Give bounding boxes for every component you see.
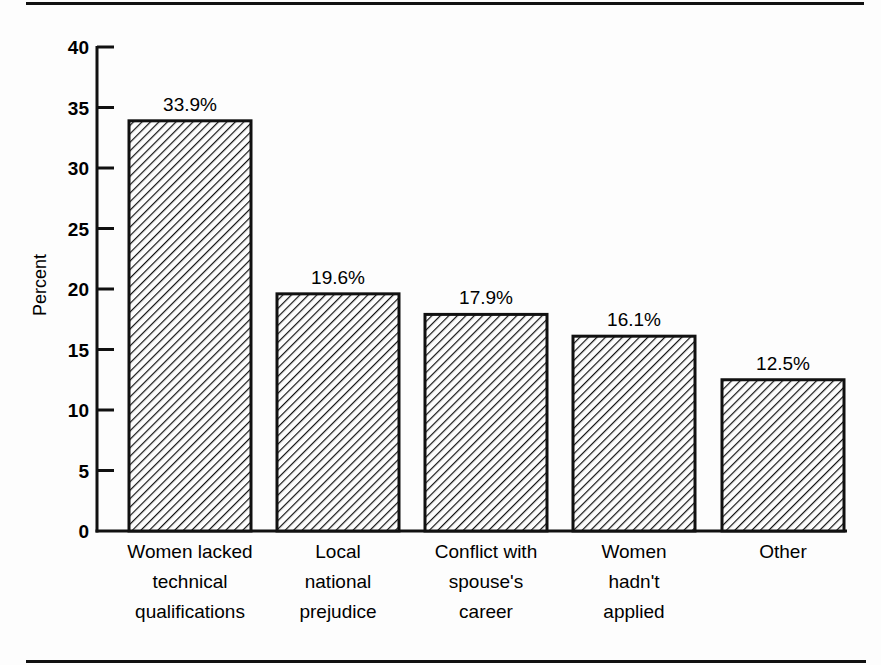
y-tick-label: 10 [68,400,89,421]
y-tick-label: 25 [68,219,90,240]
y-tick-label: 20 [68,279,89,300]
category-label: hadn't [608,571,660,592]
bar [129,121,251,531]
y-tick-label: 0 [78,521,89,542]
y-tick-label: 5 [78,461,89,482]
bar [425,314,547,531]
category-label: spouse's [449,571,523,592]
category-label: Women [601,541,666,562]
category-label: national [305,571,372,592]
value-label: 19.6% [311,267,365,288]
y-axis-title: Percent [30,254,50,316]
bar-group: 12.5%Other [722,353,844,562]
category-label: applied [603,601,664,622]
category-label: qualifications [135,601,245,622]
category-label: technical [153,571,228,592]
bar-group: 16.1%Womenhadn'tapplied [573,309,695,622]
category-label: Conflict with [435,541,537,562]
bar [722,380,844,531]
value-label: 33.9% [163,94,217,115]
value-label: 12.5% [756,353,810,374]
bar-group: 33.9%Women lackedtechnicalqualifications [127,94,252,622]
bar [573,336,695,531]
y-tick-label: 35 [68,98,90,119]
bars: 33.9%Women lackedtechnicalqualifications… [127,94,844,622]
value-label: 16.1% [607,309,661,330]
bar-group: 19.6%Localnationalprejudice [277,267,399,622]
bar [277,294,399,531]
y-tick-label: 15 [68,340,90,361]
category-label: Local [315,541,360,562]
category-label: Women lacked [127,541,252,562]
y-tick-label: 40 [68,37,89,58]
category-label: Other [759,541,807,562]
y-tick-label: 30 [68,158,89,179]
bar-group: 17.9%Conflict withspouse'scareer [425,287,547,622]
value-label: 17.9% [459,287,513,308]
category-label: career [459,601,514,622]
bar-chart: 0510152025303540 33.9%Women lackedtechni… [0,0,881,665]
category-label: prejudice [299,601,376,622]
